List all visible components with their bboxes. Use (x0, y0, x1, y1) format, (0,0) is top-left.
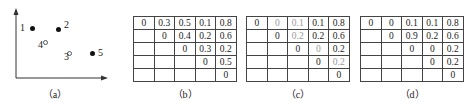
point-label: 4 (38, 39, 43, 50)
matrix-cell: 0.1 (195, 17, 216, 30)
matrix-row: 00.2 (361, 56, 464, 69)
matrix-row: 00.30.50.10.8 (134, 17, 237, 30)
matrix-cell: 0.8 (216, 17, 237, 30)
matrix-cell (361, 30, 382, 43)
matrix-cell: 0.2 (288, 30, 309, 43)
matrix-cell: 0.6 (443, 30, 464, 43)
matrix-row: 00.40.20.6 (134, 30, 237, 43)
matrix-cell: 0.2 (443, 43, 464, 56)
matrix-cell: 0 (195, 56, 216, 69)
matrix-cell: 0.5 (216, 56, 237, 69)
matrix-cell: 0.4 (175, 30, 196, 43)
matrix-row: 00.90.20.6 (361, 30, 464, 43)
matrix-cell (288, 69, 309, 82)
matrix-cell: 0 (267, 17, 288, 30)
matrix-cell (381, 43, 402, 56)
matrix-cell: 0.2 (308, 30, 329, 43)
caption-b: （b） (155, 86, 215, 101)
matrix-cell (134, 69, 155, 82)
matrix-row: 00.5 (134, 56, 237, 69)
matrix-cell (308, 69, 329, 82)
matrix-cell (154, 69, 175, 82)
matrix-cell: 0 (381, 17, 402, 30)
matrix-cell: 0 (361, 17, 382, 30)
matrix-cell: 0 (288, 43, 309, 56)
matrix-d: 000.10.10.800.90.20.6000.200.20 (360, 16, 464, 82)
caption-a: （a） (25, 86, 85, 101)
point-1-icon (30, 26, 35, 31)
matrix-cell: 0.2 (329, 43, 350, 56)
matrix-cell: 0.1 (422, 17, 443, 30)
matrix-row: 00.2 (247, 56, 350, 69)
matrix-cell: 0 (216, 69, 237, 82)
matrix-cell: 0 (443, 69, 464, 82)
matrix-cell (134, 43, 155, 56)
matrix-cell (288, 56, 309, 69)
matrix-cell (247, 30, 268, 43)
matrix-cell (154, 56, 175, 69)
point-4-icon (43, 40, 48, 45)
matrix-cell: 0 (308, 56, 329, 69)
matrix-row: 000.10.10.8 (361, 17, 464, 30)
matrix-cell: 0.1 (288, 17, 309, 30)
matrix-cell (154, 43, 175, 56)
matrix-cell: 0 (154, 30, 175, 43)
matrix-cell: 0 (134, 17, 155, 30)
matrix-cell: 0 (422, 43, 443, 56)
matrix-row: 00.30.2 (134, 43, 237, 56)
matrix-c: 000.10.10.800.20.20.6000.200.20 (246, 16, 350, 82)
matrix-cell (267, 43, 288, 56)
matrix-row: 00.20.20.6 (247, 30, 350, 43)
point-label: 2 (64, 19, 69, 30)
matrix-cell: 0 (402, 43, 423, 56)
matrix-cell (247, 56, 268, 69)
matrix-cell (267, 56, 288, 69)
matrix-cell (175, 69, 196, 82)
matrix-cell (267, 69, 288, 82)
matrix-cell: 0 (267, 30, 288, 43)
matrix-cell: 0 (329, 69, 350, 82)
matrix-cell (361, 69, 382, 82)
matrix-cell: 0 (247, 17, 268, 30)
matrix-cell (402, 69, 423, 82)
panel-a-scatter: 12345 （a） (0, 0, 120, 102)
matrix-cell (134, 56, 155, 69)
matrix-cell: 0.1 (308, 17, 329, 30)
matrix-row: 000.10.10.8 (247, 17, 350, 30)
matrix-cell: 0.2 (422, 30, 443, 43)
matrix-cell (381, 69, 402, 82)
matrix-row: 0 (134, 69, 237, 82)
point-label: 1 (20, 22, 25, 33)
matrix-cell: 0.6 (329, 30, 350, 43)
caption-d: （d） (382, 86, 442, 101)
matrix-cell: 0.1 (402, 17, 423, 30)
matrix-cell (134, 30, 155, 43)
matrix-cell: 0.2 (195, 30, 216, 43)
matrix-cell: 0.8 (329, 17, 350, 30)
matrix-cell: 0.3 (195, 43, 216, 56)
matrix-cell: 0 (308, 43, 329, 56)
matrix-b: 00.30.50.10.800.40.20.600.30.200.50 (133, 16, 237, 82)
matrix-cell: 0.6 (216, 30, 237, 43)
matrix-cell (175, 56, 196, 69)
matrix-cell: 0.3 (154, 17, 175, 30)
point-label: 3 (64, 51, 69, 62)
matrix-row: 000.2 (361, 43, 464, 56)
point-label: 5 (98, 47, 103, 58)
matrix-cell: 0.2 (329, 56, 350, 69)
matrix-cell: 0.5 (175, 17, 196, 30)
caption-c: （c） (268, 86, 328, 101)
matrix-cell (381, 56, 402, 69)
matrix-cell: 0 (422, 56, 443, 69)
matrix-cell: 0.2 (216, 43, 237, 56)
matrix-cell (402, 56, 423, 69)
matrix-row: 000.2 (247, 43, 350, 56)
matrix-row: 0 (247, 69, 350, 82)
matrix-row: 0 (361, 69, 464, 82)
matrix-cell (247, 69, 268, 82)
matrix-cell: 0.8 (443, 17, 464, 30)
matrix-cell (195, 69, 216, 82)
matrix-cell: 0 (381, 30, 402, 43)
point-2-icon (56, 27, 61, 32)
matrix-cell (361, 43, 382, 56)
